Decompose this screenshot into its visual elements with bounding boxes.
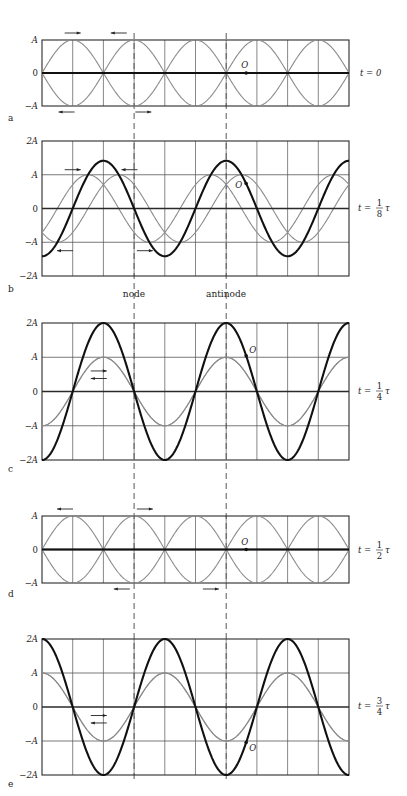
y-tick-label: A	[31, 352, 38, 362]
y-tick-label: −A	[25, 421, 38, 431]
point-o-label: O	[249, 345, 256, 355]
direction-arrow-right	[135, 110, 151, 113]
standing-wave-figure: OA0−Aat = 0O2AA0−A−2Abt =18τO2AA0−A−2Act…	[0, 0, 407, 796]
y-tick-label: 0	[33, 204, 38, 214]
panel-letter: d	[8, 589, 14, 599]
y-tick-label: 0	[33, 702, 38, 712]
y-tick-label: −A	[25, 237, 38, 247]
antinode-label: antinode	[206, 289, 246, 299]
y-tick-label: A	[31, 511, 38, 521]
time-denominator: 4	[377, 392, 382, 402]
direction-arrow-left	[91, 377, 107, 380]
direction-arrow-left	[91, 721, 107, 724]
panel-a: OA0−Aat = 0	[8, 31, 382, 123]
time-denominator: 2	[377, 551, 382, 561]
direction-arrow-right	[91, 369, 107, 372]
y-tick-label: 0	[33, 68, 38, 78]
time-label: t = 0	[360, 68, 382, 78]
svg-text:t =: t =	[358, 701, 371, 711]
y-tick-label: 0	[33, 387, 38, 397]
panel-letter: c	[8, 464, 13, 474]
point-o-marker	[244, 548, 248, 552]
point-o-marker	[244, 741, 248, 745]
standing-wave-diagram: OA0−Aat = 0O2AA0−A−2Abt =18τO2AA0−A−2Act…	[0, 0, 407, 796]
point-o-label: O	[235, 180, 242, 190]
point-o-label: O	[241, 60, 248, 70]
direction-arrow-left	[57, 507, 73, 510]
panel-letter: a	[8, 113, 14, 123]
svg-text:t =: t =	[358, 203, 371, 213]
tau-symbol: τ	[385, 701, 390, 711]
y-tick-label: −2A	[19, 770, 38, 780]
point-o-marker	[244, 354, 248, 358]
y-tick-label: −A	[25, 101, 38, 111]
wave-panels: OA0−Aat = 0O2AA0−A−2Abt =18τO2AA0−A−2Act…	[8, 31, 390, 789]
time-label: t =34τ	[358, 696, 390, 717]
y-tick-label: −2A	[19, 455, 38, 465]
panel-c: O2AA0−A−2Act =14τ	[8, 318, 390, 474]
node-antinode-guides	[134, 33, 226, 781]
time-numerator: 1	[377, 540, 382, 550]
direction-arrow-left	[114, 587, 130, 590]
time-numerator: 1	[377, 381, 382, 391]
y-tick-label: −2A	[19, 271, 38, 281]
svg-text:t =: t =	[358, 545, 371, 555]
direction-arrow-right	[137, 507, 153, 510]
y-tick-label: 2A	[25, 634, 38, 644]
direction-arrow-right	[91, 714, 107, 717]
direction-arrow-left	[111, 31, 127, 34]
panel-letter: b	[8, 284, 14, 294]
panel-letter: e	[8, 779, 13, 789]
y-tick-label: 0	[33, 545, 38, 555]
panel-d: OA0−Adt =12τ	[8, 507, 390, 599]
panel-e: O2AA0−A−2Aet =34τ	[8, 634, 390, 789]
direction-arrow-right	[65, 31, 81, 34]
time-label: t =14τ	[358, 381, 390, 402]
time-label: t =12τ	[358, 540, 390, 561]
tau-symbol: τ	[385, 386, 390, 396]
time-label: t =18τ	[358, 198, 390, 219]
direction-arrow-right	[137, 249, 153, 252]
annotations: node antinode	[123, 289, 246, 299]
svg-text:t =: t =	[358, 386, 371, 396]
point-o-label: O	[241, 537, 248, 547]
direction-arrow-left	[59, 110, 75, 113]
y-tick-label: −A	[25, 736, 38, 746]
time-denominator: 8	[377, 209, 382, 219]
point-o-label: O	[249, 743, 256, 753]
point-o-marker	[244, 71, 248, 75]
point-o-marker	[244, 182, 248, 186]
direction-arrow-left	[57, 249, 73, 252]
direction-arrow-right	[203, 587, 219, 590]
node-label: node	[123, 289, 145, 299]
tau-symbol: τ	[385, 545, 390, 555]
panel-b: O2AA0−A−2Abt =18τ	[8, 136, 390, 294]
time-numerator: 3	[377, 696, 382, 706]
y-tick-label: −A	[25, 578, 38, 588]
time-numerator: 1	[377, 198, 382, 208]
y-tick-label: 2A	[25, 136, 38, 146]
tau-symbol: τ	[385, 203, 390, 213]
y-tick-label: 2A	[25, 318, 38, 328]
y-tick-label: A	[31, 35, 38, 45]
time-denominator: 4	[377, 707, 382, 717]
y-tick-label: A	[31, 668, 38, 678]
y-tick-label: A	[31, 170, 38, 180]
direction-arrow-left	[121, 168, 137, 171]
